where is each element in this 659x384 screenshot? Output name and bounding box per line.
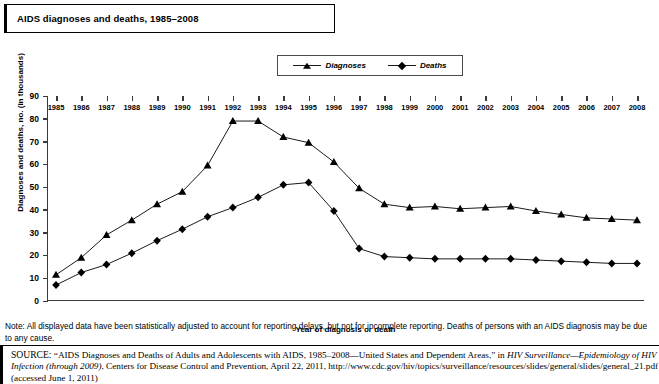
y-tick: 90	[6, 91, 48, 101]
data-point	[507, 202, 515, 209]
y-tick-label: 20	[30, 250, 39, 260]
y-tick-label: 50	[30, 182, 39, 192]
data-point	[204, 161, 212, 168]
y-tick-label: 0	[34, 296, 39, 306]
data-point	[77, 269, 85, 277]
data-point	[330, 158, 338, 165]
data-point	[557, 257, 565, 265]
legend-label-diagnoses: Diagnoses	[325, 61, 365, 70]
figure-source-box: SOURCE: “AIDS Diagnoses and Deaths of Ad…	[0, 345, 659, 384]
legend-item-deaths: Deaths	[388, 61, 447, 70]
data-point	[406, 254, 414, 262]
data-point	[532, 256, 540, 264]
series-diagnoses	[52, 117, 641, 278]
y-tick: 70	[6, 137, 48, 147]
plot-area: 0102030405060708090 19851986198719881989…	[47, 96, 644, 301]
triangle-marker-icon	[293, 65, 321, 66]
data-point	[431, 255, 439, 263]
data-point	[431, 202, 439, 209]
y-tick: 50	[6, 182, 48, 192]
data-point	[204, 213, 212, 221]
y-tick-label: 10	[30, 273, 39, 283]
series-deaths	[52, 179, 641, 289]
chart-figure: Diagnoses Deaths Diagnoses and deaths, n…	[0, 33, 659, 305]
series-line	[56, 183, 637, 285]
data-point	[507, 255, 515, 263]
chart-legend: Diagnoses Deaths	[277, 55, 463, 76]
data-point	[128, 249, 136, 257]
figure-title-box: AIDS diagnoses and deaths, 1985–2008	[4, 4, 335, 33]
y-tick: 10	[6, 273, 48, 283]
y-tick: 60	[6, 159, 48, 169]
data-point	[128, 216, 136, 223]
data-point	[380, 200, 388, 207]
data-point	[482, 255, 490, 263]
source-prefix: SOURCE:	[11, 349, 52, 360]
y-tick: 0	[6, 296, 48, 306]
y-tick: 30	[6, 228, 48, 238]
legend-item-diagnoses: Diagnoses	[293, 61, 365, 70]
data-point	[103, 231, 111, 238]
data-point	[52, 281, 60, 289]
y-tick: 20	[6, 250, 48, 260]
y-tick-label: 60	[30, 159, 39, 169]
source-publication: HIV Surveillance—Epidemiology of HIV Inf…	[11, 350, 656, 371]
data-point	[153, 237, 161, 245]
y-tick-label: 30	[30, 228, 39, 238]
data-point	[52, 271, 60, 278]
y-tick: 80	[6, 114, 48, 124]
data-point	[633, 259, 641, 267]
y-tick-label: 70	[30, 137, 39, 147]
figure-source: SOURCE: “AIDS Diagnoses and Deaths of Ad…	[11, 349, 659, 384]
y-tick-label: 40	[30, 205, 39, 215]
data-point	[179, 225, 187, 233]
data-point	[583, 258, 591, 266]
y-tick: 40	[6, 205, 48, 215]
series-layer	[48, 96, 645, 301]
data-point	[381, 253, 389, 261]
series-line	[56, 121, 637, 275]
figure-note: Note: All displayed data have been stati…	[5, 320, 655, 344]
data-point	[279, 133, 287, 140]
y-axis-label: Diagnoses and deaths, no. (in thousands)	[16, 38, 25, 228]
y-tick-label: 90	[30, 91, 39, 101]
data-point	[254, 193, 262, 201]
data-point	[229, 204, 237, 212]
data-point	[456, 255, 464, 263]
data-point	[280, 181, 288, 189]
y-tick-label: 80	[30, 114, 39, 124]
data-point	[608, 259, 616, 267]
data-point	[153, 200, 161, 207]
legend-label-deaths: Deaths	[420, 61, 447, 70]
data-point	[103, 261, 111, 269]
data-point	[355, 245, 363, 253]
page-title: AIDS diagnoses and deaths, 1985–2008	[17, 13, 199, 24]
diamond-marker-icon	[388, 65, 416, 66]
